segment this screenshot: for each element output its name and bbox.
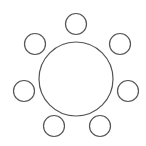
chair-top-left — [25, 34, 46, 55]
chair-right — [118, 81, 139, 102]
chair-top-right — [110, 34, 131, 55]
chair-bottom-right — [90, 116, 111, 137]
seating-diagram — [0, 0, 146, 146]
round-table — [39, 42, 113, 116]
chair-top — [66, 14, 87, 35]
chair-left — [14, 81, 35, 102]
chair-bottom-left — [44, 116, 65, 137]
